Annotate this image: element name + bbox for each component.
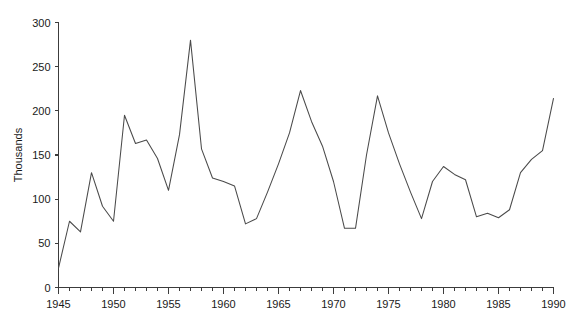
y-tick-label: 250 [32,61,50,73]
y-tick-label: 150 [32,149,50,161]
y-axis-title-text: Thousands [12,127,24,182]
x-axis: 1945195019551960196519701975198019851990 [46,288,565,310]
x-tick-label: 1980 [431,298,455,310]
data-series-group [59,40,554,268]
y-tick-label: 200 [32,105,50,117]
x-tick-label: 1970 [321,298,345,310]
y-tick-label: 50 [38,237,50,249]
x-tick-label: 1985 [486,298,510,310]
y-tick-label: 300 [32,17,50,29]
data-line-1 [59,40,554,268]
x-tick-label: 1955 [156,298,180,310]
line-chart: 050100150200250300 194519501955196019651… [0,0,574,327]
x-tick-label: 1950 [101,298,125,310]
x-tick-label: 1975 [376,298,400,310]
y-tick-label: 100 [32,193,50,205]
y-axis: 050100150200250300 [32,17,58,294]
x-tick-label: 1990 [541,298,565,310]
x-tick-label: 1960 [211,298,235,310]
y-tick-label: 0 [44,282,50,294]
chart-canvas: 050100150200250300 194519501955196019651… [0,0,574,327]
x-tick-label: 1965 [266,298,290,310]
x-tick-label: 1945 [46,298,70,310]
y-axis-title: Thousands [12,127,24,182]
